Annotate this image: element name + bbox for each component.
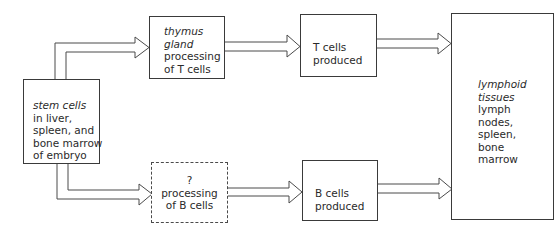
thymus-box: thymus gland processing of T cells: [149, 16, 225, 79]
lymphoid-line-5: marrow: [478, 153, 553, 166]
unknown-line-1: processing: [152, 187, 227, 200]
arrow-thymus-to-tcells: [224, 35, 300, 57]
lymphoid-line-2: nodes,: [478, 116, 553, 129]
stem-cells-line-3: bone marrow: [33, 137, 99, 150]
lymphoid-heading-2: tissues: [478, 91, 553, 104]
unknown-line-2: of B cells: [152, 199, 227, 212]
arrow-stem-to-unknown: [57, 163, 152, 205]
thymus-heading-2: gland: [164, 38, 224, 51]
stem-cells-box: stem cells in liver, spleen, and bone ma…: [23, 79, 100, 164]
b-cells-line-1: B cells: [315, 187, 377, 200]
lymphoid-line-4: bone: [478, 141, 553, 154]
stem-cells-line-1: in liver,: [33, 112, 99, 125]
arrow-tcells-to-lymphoid: [376, 33, 451, 54]
lymphoid-line-1: lymph: [478, 103, 553, 116]
lymphoid-tissues-box: lymphoid tissues lymph nodes, spleen, bo…: [451, 13, 554, 220]
unknown-heading: ?: [152, 174, 227, 187]
thymus-line-2: of T cells: [164, 63, 224, 76]
arrow-stem-to-thymus: [55, 37, 149, 79]
thymus-line-1: processing: [164, 50, 224, 63]
t-cells-line-1: T cells: [313, 41, 376, 54]
arrow-bcells-to-lymphoid: [377, 178, 452, 199]
arrow-unknown-to-bcells: [227, 181, 302, 203]
unknown-processing-box: ? processing of B cells: [151, 162, 228, 223]
stem-cells-heading: stem cells: [33, 99, 99, 112]
t-cells-line-2: produced: [313, 54, 376, 67]
lymphoid-line-3: spleen,: [478, 128, 553, 141]
stem-cells-line-2: spleen, and: [33, 124, 99, 137]
stem-cells-line-4: of embryo: [33, 149, 99, 162]
b-cells-line-2: produced: [315, 200, 377, 213]
b-cells-box: B cells produced: [302, 160, 378, 221]
t-cells-box: T cells produced: [300, 14, 377, 77]
lymphocyte-development-diagram: stem cells in liver, spleen, and bone ma…: [0, 0, 560, 236]
thymus-heading-1: thymus: [164, 25, 224, 38]
lymphoid-heading-1: lymphoid: [478, 78, 553, 91]
